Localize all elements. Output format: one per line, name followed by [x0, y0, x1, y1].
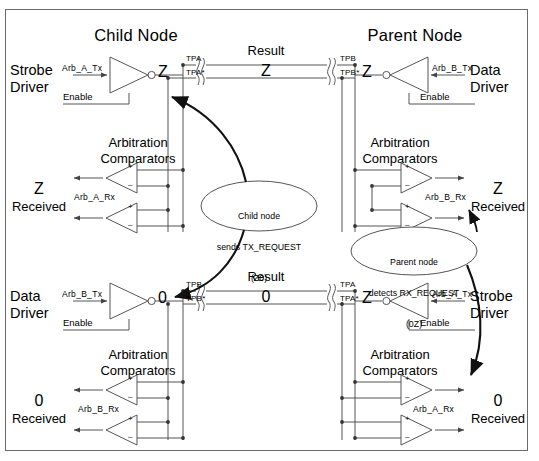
parent-bottom-arbitration-line1: Arbitration: [340, 348, 460, 363]
bottom-bus-left-tpb: TPB: [186, 281, 202, 290]
child-top-received-level: Z: [14, 180, 64, 198]
child-strobe-driver-label-line1: Strobe: [10, 62, 53, 78]
comparator-plus-4: +: [405, 203, 410, 212]
arb-b-tx-label-top: Arb_B_Tx: [432, 64, 472, 74]
arb-b-rx-label: Arb_B_Rx: [425, 193, 466, 203]
callout-1: Child node sends TX_REQUEST (Z0): [205, 190, 313, 304]
arb-b-rx-label-bottom: Arb_B_Rx: [78, 405, 119, 415]
parent-strobe-enable-label: Enable: [420, 318, 450, 329]
comparator-minus-7: –: [405, 393, 409, 402]
child-data-output-level: 0: [158, 289, 167, 307]
parent-bottom-arbitration-line2: Comparators: [340, 364, 460, 379]
comparator-plus-3: +: [405, 163, 410, 172]
top-bus-right-tpb: TPB: [340, 55, 356, 64]
parent-bottom-received-label: Received: [463, 412, 533, 427]
parent-data-enable-label: Enable: [420, 92, 450, 103]
parent-strobe-output-level: Z: [362, 289, 372, 307]
comparator-plus-1: +: [128, 163, 133, 172]
parent-data-driver-label-line2: Driver: [470, 79, 509, 95]
bottom-bus-result-label: Result: [221, 270, 311, 285]
parent-top-arbitration-line2: Comparators: [340, 152, 460, 167]
child-bottom-received-label: Received: [4, 412, 74, 427]
arb-b-tx-label-bottom: Arb_B_Tx: [62, 290, 102, 300]
arb-a-rx-label-bottom: Arb_A_Rx: [413, 405, 454, 415]
child-bottom-arbitration-line2: Comparators: [78, 364, 198, 379]
callout-1-line1: Child node: [205, 211, 313, 221]
parent-strobe-driver-label-line2: Driver: [470, 305, 509, 321]
child-top-arbitration-line1: Arbitration: [78, 136, 198, 151]
child-strobe-driver-label-line2: Driver: [10, 79, 49, 95]
top-bus-left-tpa: TPA: [186, 55, 202, 64]
parent-data-driver-label-line1: Data: [470, 62, 501, 78]
callout-1-line2: sends TX_REQUEST: [205, 242, 313, 252]
child-top-arbitration-line2: Comparators: [78, 152, 198, 167]
parent-bottom-received-level: 0: [473, 392, 523, 410]
comparator-plus-8: +: [405, 415, 410, 424]
parent-top-received-label: Received: [463, 200, 533, 215]
comparator-minus-5: –: [128, 393, 132, 402]
comparator-plus-5: +: [128, 375, 133, 384]
comparator-minus-1: –: [128, 181, 132, 190]
comparator-plus-2: +: [128, 203, 133, 212]
top-bus-left-tpa-star: TPA*: [186, 69, 205, 78]
top-bus-result-value: Z: [221, 62, 311, 80]
comparator-plus-6: +: [128, 415, 133, 424]
top-bus-result-label: Result: [221, 44, 311, 59]
child-node-title: Child Node: [66, 26, 206, 44]
parent-top-received-level: Z: [473, 180, 523, 198]
child-bottom-arbitration-line1: Arbitration: [78, 348, 198, 363]
diagram-canvas: Child Node Parent Node Strobe Driver Arb…: [0, 0, 539, 461]
child-top-received-label: Received: [4, 200, 74, 215]
parent-data-output-level: Z: [362, 63, 372, 81]
comparator-minus-8: –: [405, 433, 409, 442]
arb-a-rx-label: Arb_A_Rx: [74, 193, 115, 203]
parent-node-title: Parent Node: [345, 26, 485, 44]
comparator-minus-4: –: [405, 221, 409, 230]
comparator-minus-3: –: [405, 181, 409, 190]
child-strobe-output-level: Z: [158, 63, 168, 81]
comparator-plus-7: +: [405, 375, 410, 384]
comparator-minus-6: –: [128, 433, 132, 442]
parent-strobe-driver-label-line1: Strobe: [470, 288, 513, 304]
child-data-driver-label-line1: Data: [10, 288, 41, 304]
bottom-bus-right-tpa-star: TPA*: [340, 295, 359, 304]
child-strobe-enable-label: Enable: [63, 92, 93, 103]
comparator-minus-2: –: [128, 221, 132, 230]
parent-top-arbitration-line1: Arbitration: [340, 136, 460, 151]
top-bus-right-tpb-star: TPB*: [340, 69, 359, 78]
bottom-bus-result-value: 0: [221, 288, 311, 306]
child-data-enable-label: Enable: [63, 318, 93, 329]
child-bottom-received-level: 0: [14, 392, 64, 410]
bottom-bus-left-tpb-star: TPB*: [186, 295, 205, 304]
arb-a-tx-label-top: Arb_A_Tx: [62, 64, 102, 74]
callout-2-line3: (0Z): [356, 319, 472, 329]
child-data-driver-label-line2: Driver: [10, 305, 49, 321]
arb-a-tx-label-bottom: Arb_A_Tx: [432, 290, 472, 300]
bottom-bus-right-tpa: TPA: [340, 281, 356, 290]
callout-2-line1: Parent node: [356, 257, 472, 267]
